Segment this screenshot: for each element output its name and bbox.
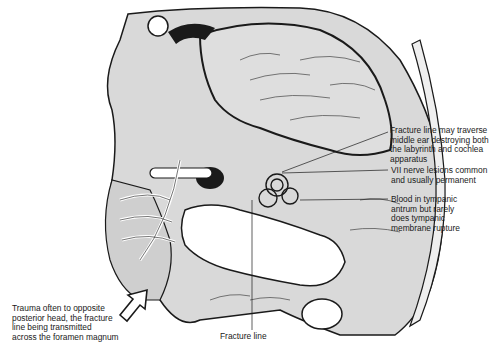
- label-fracture-line: Fracture line: [220, 332, 267, 342]
- label-blood-tympanic: Blood in tympanic antrum but rarely does…: [391, 195, 460, 233]
- label-fracture-middle-ear: Fracture line may traverse middle ear de…: [390, 126, 489, 164]
- label-vii-nerve: VII nerve lesions common and usually per…: [391, 166, 487, 185]
- condyle-cross-section: [302, 299, 342, 329]
- label-trauma: Trauma often to opposite posterior head,…: [12, 304, 119, 342]
- nerve-bundle: [150, 168, 212, 178]
- trauma-arrow-icon: [120, 290, 147, 321]
- vessel-cross-section-top: [148, 16, 168, 36]
